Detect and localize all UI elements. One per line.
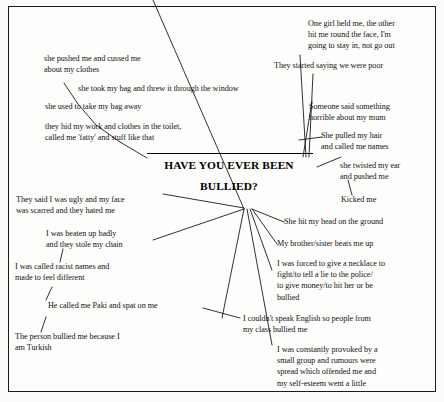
branch-couldnt-speak-english: I couldn't speak English so people from … [243,313,433,335]
central-node-line-1: HAVE YOU EVER BEEN [141,155,317,176]
branch-kicked-me: Kicked me [341,194,431,205]
branch-ugly-face-scarred: They said I was ugly and my face was sca… [16,194,191,216]
branch-pushed-cussed: she pushed me and cussed me about my clo… [44,53,224,75]
central-question-node: HAVE YOU EVER BEEN BULLIED? [141,155,317,197]
branch-beaten-up-chain: I was beaten up badly and they stole my … [46,228,206,250]
branch-hid-work-clothes: they hid my work and clothes in the toil… [45,121,255,143]
branch-racist-names: I was called racist names and made to fe… [15,261,190,283]
branch-took-bag-window: she took my bag and threw it through the… [78,83,308,94]
branch-hit-head-ground: She hit my head on the ground [284,216,434,227]
branch-twisted-ear: she twisted my ear and pushed me [340,160,440,182]
branch-one-girl-held-me: One girl held me, the other hit me round… [308,18,433,52]
branch-paki-spat: He called me Paki and spat on me [48,300,223,311]
branch-constantly-provoked: I was constantly provoked by a small gro… [277,344,432,389]
branch-saying-we-were-poor: They started saying we were poor [274,60,434,71]
branch-turkish: The person bullied me because I am Turki… [15,331,190,353]
branch-horrible-about-mum: Someone said something horrible about my… [309,101,434,123]
central-node-rule [147,153,313,154]
branch-forced-necklace: I was forced to give a necklace to fight… [277,258,432,303]
branch-take-bag-away: she used to take my bag away [45,101,225,112]
branch-pulled-hair-names: She pulled my hair and called me names [321,130,441,152]
mind-map-page: HAVE YOU EVER BEEN BULLIED? she pushed m… [0,0,444,402]
branch-brother-sister: My brother/sister beats me up [277,238,427,249]
